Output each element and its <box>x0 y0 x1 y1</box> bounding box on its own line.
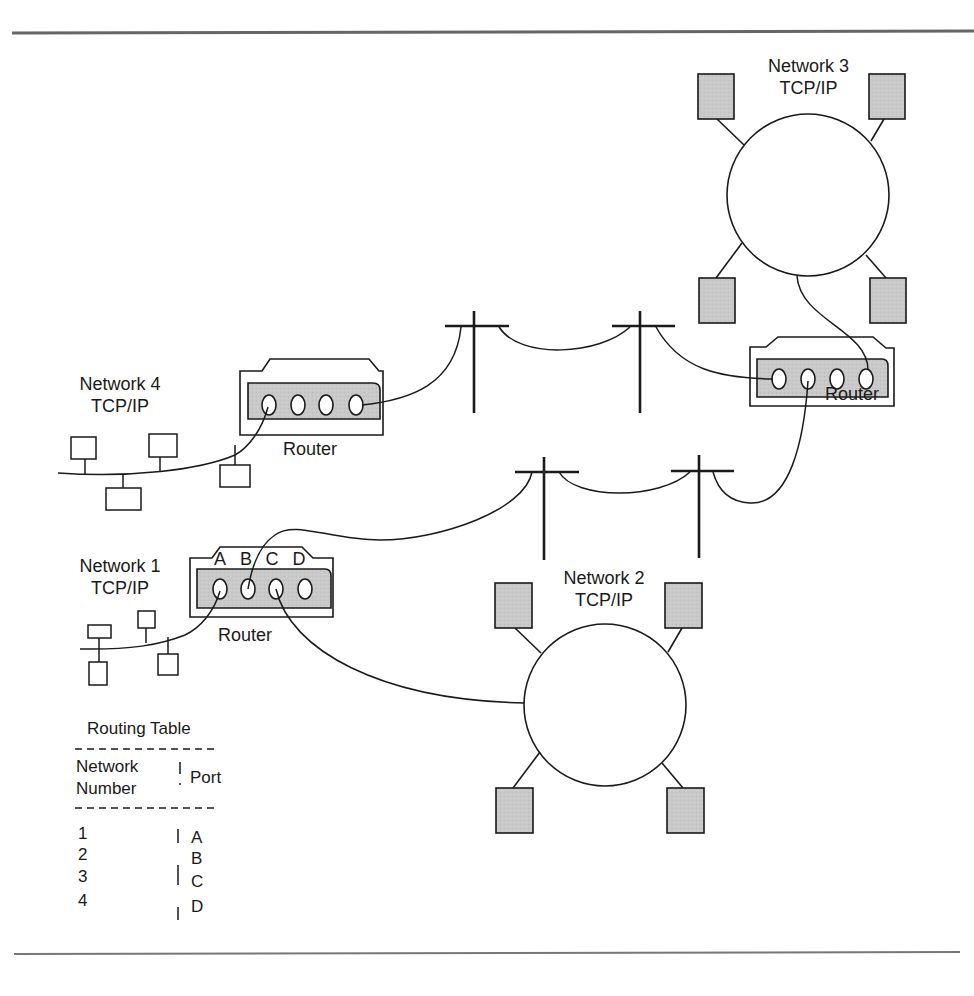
network-3-label: Network 3 TCP/IP <box>746 55 871 99</box>
row-port: C <box>191 871 203 892</box>
pole-lower-right <box>671 455 734 558</box>
network-protocol: TCP/IP <box>544 589 664 611</box>
port-a <box>213 579 227 599</box>
ring-3-icon <box>727 114 889 276</box>
bottom-rule <box>14 952 960 954</box>
header-network-line2: Number <box>76 778 136 799</box>
network-name: Network 3 <box>746 55 871 77</box>
host-computer-icon <box>869 74 905 119</box>
host-computer-icon <box>665 583 702 628</box>
network-3-ring <box>698 74 906 323</box>
header-network-line1: Network <box>76 756 138 777</box>
row-port: A <box>191 827 202 848</box>
router-label: Router <box>270 438 350 460</box>
port-label-d: D <box>289 548 309 570</box>
network-4-label: Network 4 TCP/IP <box>65 373 175 417</box>
host-computer-icon <box>220 465 250 487</box>
host-computer-icon <box>71 437 96 459</box>
row-network: 1 <box>78 823 87 844</box>
host-computer-icon <box>88 625 111 638</box>
header-port: Port <box>190 767 221 788</box>
network-protocol: TCP/IP <box>65 395 175 417</box>
ring-2-icon <box>524 624 686 786</box>
row-network: 2 <box>78 844 87 865</box>
row-network: 4 <box>78 890 87 911</box>
row-port: D <box>191 896 203 917</box>
host-computer-icon <box>106 488 141 510</box>
network-2-ring <box>495 583 704 833</box>
network-2-label: Network 2 TCP/IP <box>544 567 664 611</box>
host-computer-icon <box>667 788 704 833</box>
network-protocol: TCP/IP <box>746 77 871 99</box>
host-computer-icon <box>496 788 533 833</box>
network-protocol: TCP/IP <box>65 577 175 599</box>
pole-lower-left <box>515 457 579 560</box>
host-computer-icon <box>158 654 178 675</box>
port-label-a: A <box>210 548 230 570</box>
host-computer-icon <box>699 278 735 323</box>
port-d <box>298 579 312 599</box>
network-name: Network 1 <box>65 555 175 577</box>
port-label-b: B <box>236 548 256 570</box>
top-rule <box>12 31 974 33</box>
pole-upper-left <box>445 311 509 413</box>
host-computer-icon <box>138 611 155 628</box>
host-computer-icon <box>89 662 107 685</box>
host-computer-icon <box>870 278 906 323</box>
row-port: B <box>191 848 202 869</box>
port-label-c: C <box>262 548 282 570</box>
host-computer-icon <box>149 434 177 457</box>
routing-table-title: Routing Table <box>87 718 191 739</box>
host-computer-icon <box>495 583 532 628</box>
network-1-label: Network 1 TCP/IP <box>65 555 175 599</box>
network-4-bus <box>58 407 268 510</box>
host-computer-icon <box>698 74 734 119</box>
router-label: Router <box>205 624 285 646</box>
router-label: Router <box>812 383 892 405</box>
pole-upper-right <box>612 311 675 413</box>
row-network: 3 <box>78 866 87 887</box>
network-diagram <box>0 0 974 996</box>
network-name: Network 2 <box>544 567 664 589</box>
network-name: Network 4 <box>65 373 175 395</box>
